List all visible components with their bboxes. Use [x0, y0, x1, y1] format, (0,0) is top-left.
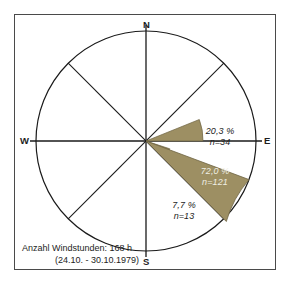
sector-count: n=13	[162, 211, 206, 222]
compass-label-north: N	[143, 20, 150, 30]
sector-label-7-7: 7,7 % n=13	[162, 200, 206, 221]
compass-label-east: E	[264, 136, 270, 146]
caption-line-period: (24.10. - 30.10.1979)	[22, 255, 172, 267]
sector-percent: 72,0 %	[190, 166, 240, 177]
sector-count: n=34	[196, 137, 244, 148]
sector-percent: 7,7 %	[162, 200, 206, 211]
sector-percent: 20,3 %	[196, 126, 244, 137]
compass-label-west: W	[20, 136, 29, 146]
sector-label-20-3: 20,3 % n=34	[196, 126, 244, 147]
wedge-sector-20-3	[146, 120, 203, 142]
caption-line-hours: Anzahl Windstunden: 168 h	[22, 243, 172, 255]
sector-label-72-0: 72,0 % n=121	[190, 166, 240, 187]
sector-count: n=121	[190, 177, 240, 188]
wind-rose-figure: N E S W 20,3 % n=34 72,0 % n=121 7,7 % n…	[0, 0, 293, 286]
caption-block: Anzahl Windstunden: 168 h (24.10. - 30.1…	[22, 243, 172, 266]
